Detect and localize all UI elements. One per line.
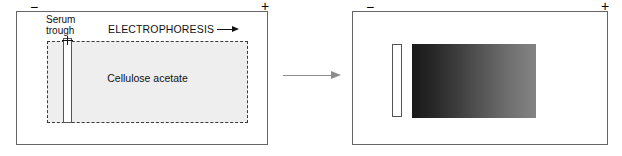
- arrow-head: [232, 26, 239, 32]
- electrophoresis-direction-group: ELECTROPHORESIS: [108, 23, 239, 35]
- serum-trough-leader-tick: [62, 40, 73, 41]
- serum-trough-callout: Serum trough: [46, 15, 75, 37]
- arrow-head: [331, 71, 341, 79]
- negative-electrode-label-before: −: [30, 0, 38, 14]
- cellulose-acetate-support: Cellulose acetate: [47, 41, 248, 123]
- electrophoresis-diagram: − + Cellulose acetate Serum trough ELECT…: [0, 0, 622, 156]
- cellulose-acetate-label: Cellulose acetate: [48, 72, 247, 84]
- serum-trough-label-line2: trough: [46, 26, 75, 37]
- serum-trough-after: [392, 44, 402, 117]
- arrow-shaft: [283, 75, 331, 77]
- positive-electrode-label-after: +: [601, 0, 609, 13]
- transition-arrow-right-icon: [283, 71, 341, 80]
- arrow-right-icon: [217, 26, 239, 33]
- electrophoresis-direction-label: ELECTROPHORESIS: [108, 23, 214, 35]
- negative-electrode-label-after: −: [366, 0, 374, 14]
- positive-electrode-label-before: +: [261, 0, 269, 13]
- serum-trough-before: [63, 38, 72, 123]
- arrow-shaft: [217, 29, 233, 31]
- separated-protein-band: [412, 44, 536, 118]
